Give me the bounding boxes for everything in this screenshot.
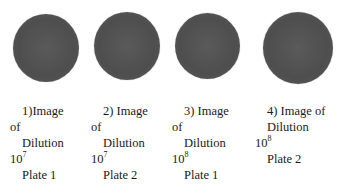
- caption-3-dilution: Dilution: [172, 135, 229, 151]
- caption-2-title: 2) Image: [91, 103, 148, 119]
- caption-4-plate: Plate 2: [255, 151, 325, 167]
- caption-1-dilution-value: 107: [10, 151, 64, 167]
- caption-3: 3) Image of Dilution 108 Plate 1: [172, 103, 229, 183]
- plate-image-4: [263, 12, 333, 84]
- caption-1-plate: Plate 1: [10, 167, 64, 183]
- caption-4-dilution-value: 108: [255, 135, 325, 151]
- caption-3-dilution-value: 108: [172, 151, 229, 167]
- caption-2: 2) Image of Dilution 107 Plate 2: [91, 103, 148, 183]
- caption-2-plate: Plate 2: [91, 167, 148, 183]
- caption-4-dilution: Dilution: [255, 119, 325, 135]
- plate-image-2: [94, 12, 160, 80]
- plate-image-3: [175, 13, 240, 79]
- caption-3-title: 3) Image: [172, 103, 229, 119]
- caption-1-dilution: Dilution: [10, 135, 64, 151]
- caption-2-dilution-value: 107: [91, 151, 148, 167]
- caption-3-of: of: [172, 119, 229, 135]
- caption-2-dilution: Dilution: [91, 135, 148, 151]
- caption-2-of: of: [91, 119, 148, 135]
- caption-4-title: 4) Image of: [255, 103, 325, 119]
- caption-1-of: of: [10, 119, 64, 135]
- plate-image-1: [13, 14, 79, 82]
- caption-4: 4) Image of Dilution 108 Plate 2: [255, 103, 325, 167]
- caption-1: 1)Image of Dilution 107 Plate 1: [10, 103, 64, 183]
- caption-1-title: 1)Image: [10, 103, 64, 119]
- caption-3-plate: Plate 1: [172, 167, 229, 183]
